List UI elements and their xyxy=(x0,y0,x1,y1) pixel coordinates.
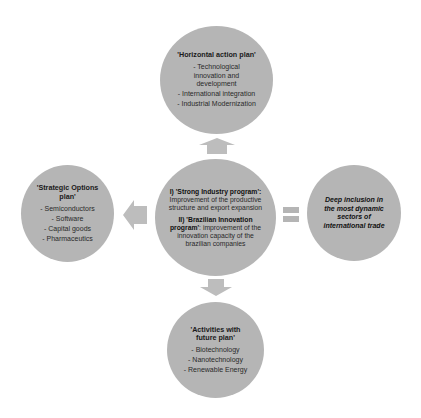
node-item: - Semiconductors xyxy=(40,205,94,214)
horizontal-action-plan-node: 'Horizontal action plan' - Technological… xyxy=(160,26,273,134)
node-item: - Technological innovation and developme… xyxy=(172,63,261,89)
node-item: - Nanotechnology xyxy=(188,356,243,365)
strategic-options-plan-node: 'Strategic Options plan' - Semiconductor… xyxy=(21,165,114,262)
node-title: 'Horizontal action plan' xyxy=(177,51,256,60)
node-item: - Pharmaceutics xyxy=(42,235,93,244)
node-item: - Industrial Modernization xyxy=(177,100,256,109)
node-title: 'Strategic Options plan' xyxy=(29,184,106,201)
equals-bar-bottom xyxy=(283,216,299,222)
deep-inclusion-node: Deep inclusion in the most dynamic secto… xyxy=(307,165,401,261)
node-item: - Renewable Energy xyxy=(184,366,247,375)
central-programs-node: I) 'Strong Industry program': Improvemen… xyxy=(155,159,276,276)
node-item: - International integration xyxy=(178,90,255,99)
strong-industry-program: I) 'Strong Industry program': Improvemen… xyxy=(167,188,264,212)
node-title: 'Activities with future plan' xyxy=(177,326,254,343)
arrow-down-icon xyxy=(199,279,233,296)
arrow-up-icon xyxy=(197,138,237,154)
brazilian-innovation-program: II) 'Brazilian Innovation program': impr… xyxy=(167,216,264,248)
node-item: - Capital goods xyxy=(44,225,91,234)
activities-future-plan-node: 'Activities with future plan' - Biotechn… xyxy=(167,302,264,398)
program-label: I) 'Strong Industry program': xyxy=(170,188,262,195)
node-item: - Software xyxy=(52,215,84,224)
arrow-left-icon xyxy=(123,200,147,230)
node-text: Deep inclusion in the most dynamic secto… xyxy=(319,196,389,230)
node-item: - Biotechnology xyxy=(191,346,239,355)
program-description: Improvement of the productive structure … xyxy=(169,196,262,211)
equals-bar-top xyxy=(283,207,299,213)
